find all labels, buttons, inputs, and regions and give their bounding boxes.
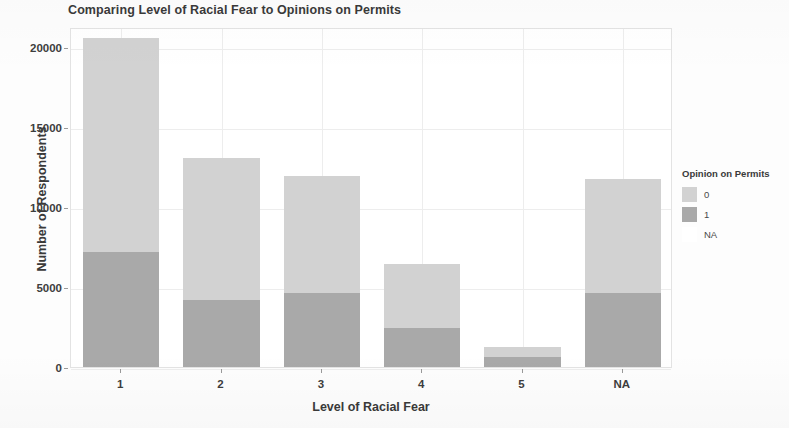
y-tick-label: 20000 bbox=[6, 42, 62, 54]
x-tick-label: 4 bbox=[418, 378, 424, 390]
bar-segment[interactable] bbox=[585, 179, 661, 293]
x-tick-label: NA bbox=[614, 378, 631, 390]
legend-items: 01NA bbox=[682, 185, 787, 243]
bar-segment[interactable] bbox=[384, 328, 460, 367]
bar-stack[interactable] bbox=[183, 158, 259, 367]
gridline-horizontal bbox=[71, 49, 671, 50]
bar-segment[interactable] bbox=[183, 300, 259, 367]
bar-segment[interactable] bbox=[183, 158, 259, 300]
legend-label: 1 bbox=[704, 209, 709, 220]
bar-segment[interactable] bbox=[384, 264, 460, 328]
legend-label: NA bbox=[704, 229, 717, 240]
legend-label: 0 bbox=[704, 189, 709, 200]
chart-title: Comparing Level of Racial Fear to Opinio… bbox=[68, 0, 668, 20]
legend-swatch bbox=[682, 207, 697, 222]
bar-stack[interactable] bbox=[484, 347, 560, 367]
y-tick-mark bbox=[64, 368, 68, 369]
bar-stack[interactable] bbox=[585, 179, 661, 367]
bar-segment[interactable] bbox=[284, 293, 360, 367]
legend-item[interactable]: NA bbox=[682, 225, 787, 243]
gridline-horizontal bbox=[71, 289, 671, 290]
legend: Opinion on Permits 01NA bbox=[682, 168, 787, 245]
bar-stack[interactable] bbox=[83, 38, 159, 367]
legend-title: Opinion on Permits bbox=[682, 168, 787, 179]
plot-area bbox=[70, 28, 672, 368]
bar-segment[interactable] bbox=[484, 357, 560, 367]
y-tick-mark bbox=[64, 48, 68, 49]
y-tick-mark bbox=[64, 128, 68, 129]
x-tick-mark bbox=[622, 369, 623, 373]
y-tick-label: 15000 bbox=[6, 122, 62, 134]
x-tick-mark bbox=[120, 369, 121, 373]
x-tick-mark bbox=[522, 369, 523, 373]
x-tick-mark bbox=[321, 369, 322, 373]
bar-segment[interactable] bbox=[585, 293, 661, 367]
legend-swatch bbox=[682, 227, 697, 242]
gridline-horizontal bbox=[71, 129, 671, 130]
bar-segment[interactable] bbox=[83, 38, 159, 252]
legend-swatch bbox=[682, 187, 697, 202]
y-tick-mark bbox=[64, 208, 68, 209]
y-tick-label: 0 bbox=[6, 362, 62, 374]
bar-stack[interactable] bbox=[384, 264, 460, 367]
x-axis-title: Level of Racial Fear bbox=[70, 400, 672, 414]
chart-container: Comparing Level of Racial Fear to Opinio… bbox=[0, 0, 789, 428]
x-tick-mark bbox=[221, 369, 222, 373]
x-tick-label: 2 bbox=[217, 378, 223, 390]
legend-item[interactable]: 0 bbox=[682, 185, 787, 203]
x-tick-label: 5 bbox=[518, 378, 524, 390]
gridline-horizontal bbox=[71, 369, 671, 370]
gridline-vertical bbox=[523, 29, 524, 367]
gridline-horizontal bbox=[71, 209, 671, 210]
x-tick-label: 1 bbox=[117, 378, 123, 390]
bar-segment[interactable] bbox=[83, 252, 159, 367]
y-tick-mark bbox=[64, 288, 68, 289]
x-tick-mark bbox=[421, 369, 422, 373]
bar-segment[interactable] bbox=[484, 347, 560, 357]
legend-item[interactable]: 1 bbox=[682, 205, 787, 223]
y-tick-label: 5000 bbox=[6, 282, 62, 294]
bar-segment[interactable] bbox=[284, 176, 360, 293]
x-tick-label: 3 bbox=[318, 378, 324, 390]
y-tick-label: 10000 bbox=[6, 202, 62, 214]
bar-stack[interactable] bbox=[284, 176, 360, 367]
